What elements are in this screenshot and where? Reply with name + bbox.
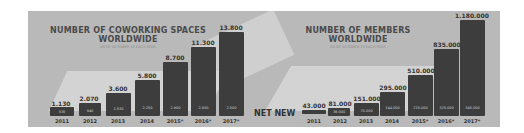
- bar-inner-value: 345.000: [460, 106, 485, 110]
- bar-2011: [302, 110, 326, 114]
- bar-2013: 1.530: [106, 93, 131, 116]
- year-label: 2013: [102, 118, 134, 124]
- bar-2016: 2.600: [191, 47, 216, 116]
- bar-value: 3.600: [102, 85, 134, 92]
- right-chart-subtitle: AS OF OCTOBER 15 EACH YEAR: [298, 45, 418, 49]
- bar-2015: 215.000: [408, 75, 433, 116]
- bar-inner-value: 2.200: [135, 106, 160, 110]
- bar-2012: 38.000: [328, 108, 350, 116]
- bar-2017: 2.500: [219, 32, 244, 116]
- bar-inner-value: 530: [50, 110, 74, 114]
- bar-inner-value: 2.600: [191, 106, 216, 110]
- bar-inner-value: 325.000: [434, 106, 459, 110]
- bar-2017: 345.000: [460, 20, 485, 116]
- bar-2014: 144.000: [380, 92, 405, 116]
- bar-value: 5.800: [131, 72, 163, 79]
- bar-value: 11.300: [187, 39, 219, 46]
- year-label: 2017*: [215, 118, 247, 124]
- bar-value: 835.000: [430, 41, 464, 48]
- bar-2015: 2.900: [163, 62, 188, 116]
- bar-value: 510.000: [404, 67, 438, 74]
- right-title-line2: WORLDWIDE: [298, 35, 418, 44]
- right-title-line1: NUMBER OF MEMBERS: [298, 26, 418, 35]
- bar-2011: 530: [50, 107, 74, 116]
- right-chart-title: NUMBER OF MEMBERS WORLDWIDE: [298, 26, 418, 44]
- infographic-panel: NUMBER OF COWORKING SPACES WORLDWIDE AS …: [28, 11, 500, 127]
- bar-value: 1.130: [46, 100, 76, 107]
- bar-value: 13.800: [215, 24, 247, 31]
- bar-2014: 2.200: [135, 80, 160, 116]
- bar-value: 1.180.000: [452, 12, 492, 19]
- bar-inner-value: 1.530: [106, 107, 131, 111]
- bar-inner-value: 940: [79, 109, 101, 113]
- bar-2013: 70.000: [354, 103, 379, 116]
- year-label: 2017*: [456, 118, 488, 124]
- bar-inner-value: 215.000: [408, 106, 433, 110]
- bar-2012: 940: [79, 103, 101, 116]
- bar-inner-value: 38.000: [328, 110, 350, 114]
- bar-inner-value: 2.500: [219, 106, 244, 110]
- bar-inner-value: 70.000: [354, 109, 379, 113]
- bar-value: 2.070: [74, 95, 104, 102]
- bar-2016: 325.000: [434, 49, 459, 116]
- bar-inner-value: 144.000: [380, 106, 405, 110]
- net-new-label: NET NEW: [254, 109, 295, 118]
- bar-value: 295.000: [376, 84, 410, 91]
- bar-value: 8.700: [159, 54, 191, 61]
- bar-inner-value: 2.900: [163, 106, 188, 110]
- bar-value: 151.000: [350, 95, 384, 102]
- left-title-line1: NUMBER OF COWORKING SPACES: [38, 26, 218, 35]
